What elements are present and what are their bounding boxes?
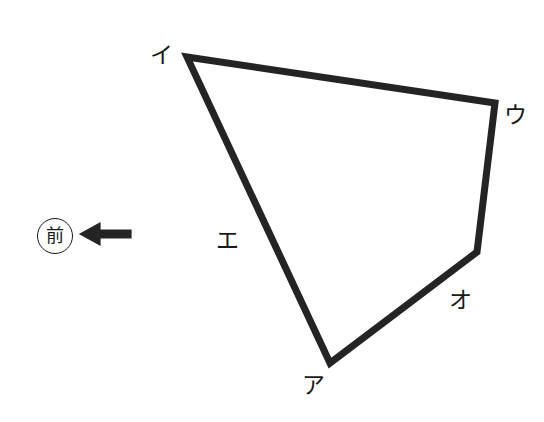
land-plot-outline (187, 57, 495, 363)
vertex-label-a: ア (302, 374, 325, 397)
front-direction-marker-label: 前 (46, 227, 64, 245)
vertex-label-i: イ (150, 44, 173, 67)
figure-canvas: 前 イ ウ オ ア エ (0, 0, 544, 422)
vertex-label-o: オ (449, 289, 472, 312)
vertex-label-u: ウ (504, 104, 527, 127)
figure-drawing (0, 0, 544, 422)
front-direction-marker: 前 (37, 218, 73, 254)
left-arrow-icon (80, 223, 131, 245)
edge-label-e: エ (216, 229, 239, 252)
